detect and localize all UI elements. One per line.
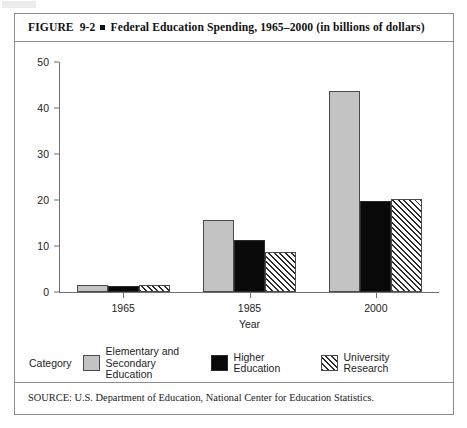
y-tick-label: 40	[23, 102, 49, 114]
x-tick-mark	[123, 293, 124, 298]
source-note: SOURCE: U.S. Department of Education, Na…	[28, 392, 374, 403]
x-tick-mark	[376, 293, 377, 298]
bar-2000-research	[391, 199, 422, 292]
legend-label: Elementary and Secondary Education	[106, 346, 198, 381]
figure-title-bar: FIGURE 9-2Federal Education Spending, 19…	[15, 14, 453, 42]
y-tick-label: 30	[23, 148, 49, 160]
x-tick-label-2000: 2000	[364, 302, 387, 314]
plot-region: 01020304050 196519852000 Year	[15, 42, 453, 342]
legend-label: University Research	[344, 352, 430, 375]
bar-1965-higher	[108, 286, 139, 292]
figure-title-text: FIGURE 9-2Federal Education Spending, 19…	[28, 21, 425, 34]
source-separator	[15, 382, 453, 383]
bar-1985-research	[265, 252, 296, 292]
y-tick-label: 0	[23, 286, 49, 298]
bar-1985-higher	[234, 240, 265, 292]
legend-entry-elementary: Elementary and Secondary Education	[83, 346, 198, 381]
figure-frame: FIGURE 9-2Federal Education Spending, 19…	[14, 13, 454, 415]
y-axis-tick-labels: 01020304050	[23, 42, 49, 342]
legend-entry-research: University Research	[321, 352, 430, 375]
bar-1965-elementary	[77, 285, 108, 292]
legend-swatch-research-icon	[321, 355, 338, 371]
bar-2000-higher	[360, 201, 391, 292]
y-tick-label: 10	[23, 240, 49, 252]
chart-legend: Category Elementary and Secondary Educat…	[29, 346, 443, 381]
x-tick-label-1985: 1985	[238, 302, 261, 314]
legend-swatch-higher-icon	[211, 355, 228, 371]
y-tick-label: 20	[23, 194, 49, 206]
bar-2000-elementary	[329, 91, 360, 292]
bar-1965-research	[139, 285, 170, 292]
legend-entries: Elementary and Secondary EducationHigher…	[83, 346, 443, 381]
x-tick-mark	[250, 293, 251, 298]
scan-artifact	[2, 1, 36, 8]
legend-caption: Category	[29, 357, 72, 369]
x-tick-label-1965: 1965	[111, 302, 134, 314]
figure-number: 9-2	[80, 21, 96, 34]
figure-label: FIGURE	[28, 21, 74, 34]
figure-title: Federal Education Spending, 1965–2000 (i…	[110, 21, 424, 34]
legend-entry-higher: Higher Education	[211, 352, 308, 375]
square-bullet-icon	[100, 25, 105, 30]
legend-swatch-elementary-icon	[83, 355, 100, 371]
legend-label: Higher Education	[234, 352, 308, 375]
y-tick-label: 50	[23, 56, 49, 68]
bar-1985-elementary	[203, 220, 234, 292]
x-axis-title: Year	[60, 318, 439, 330]
